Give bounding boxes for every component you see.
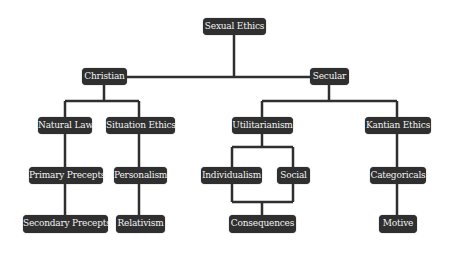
node-sexual-ethics: Sexual Ethics — [203, 18, 266, 35]
node-christian: Christian — [82, 68, 127, 85]
node-relativism: Relativism — [116, 215, 165, 233]
node-secular: Secular — [310, 68, 349, 85]
node-individualism: Individualism — [201, 167, 262, 184]
node-consequences: Consequences — [229, 215, 296, 233]
node-categoricals: Categoricals — [370, 167, 426, 184]
node-personalism: Personalism — [114, 167, 167, 184]
sexual-ethics-tree-diagram: Sexual Ethics Christian Secular Natural … — [0, 0, 455, 254]
node-motive: Motive — [379, 215, 417, 233]
node-social: Social — [277, 167, 310, 184]
node-primary-precepts: Primary Precepts — [29, 167, 103, 184]
node-kantian-ethics: Kantian Ethics — [365, 117, 431, 134]
node-utilitarianism: Utilitarianism — [232, 117, 293, 134]
node-situation-ethics: Situation Ethics — [106, 117, 175, 134]
node-natural-law: Natural Law — [38, 117, 92, 134]
node-secondary-precepts: Secondary Precepts — [23, 215, 108, 233]
